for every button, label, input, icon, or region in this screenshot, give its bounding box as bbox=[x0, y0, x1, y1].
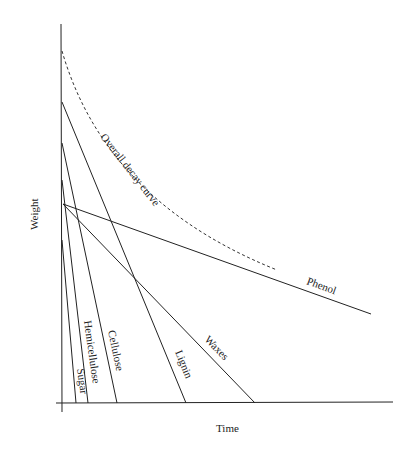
lignin-label: Lignin bbox=[173, 348, 195, 380]
x-axis bbox=[56, 402, 393, 403]
x-axis-label: Time bbox=[216, 422, 239, 434]
sugar-line bbox=[62, 240, 76, 403]
phenol-label: Phenol bbox=[305, 275, 338, 297]
phenol-line bbox=[63, 204, 371, 314]
sugar-label: Sugar bbox=[75, 368, 91, 395]
decay-diagram: Overall decay curve Sugar Hemicellulose … bbox=[0, 0, 413, 452]
waxes-label: Waxes bbox=[203, 333, 232, 362]
y-axis-label: Weight bbox=[28, 199, 40, 231]
curve-label: Overall decay curve bbox=[98, 131, 162, 208]
y-axis bbox=[61, 24, 62, 412]
overall-decay-curve bbox=[62, 51, 277, 270]
